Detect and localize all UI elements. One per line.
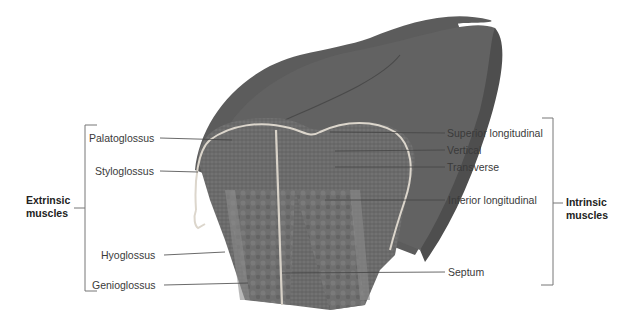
- label-genioglossus: Genioglossus: [92, 279, 156, 291]
- intrinsic-muscles-heading: Intrinsic muscles: [566, 196, 608, 222]
- label-palatoglossus: Palatoglossus: [89, 132, 154, 144]
- extrinsic-bracket: [74, 125, 97, 291]
- label-styloglossus: Styloglossus: [95, 165, 154, 177]
- tongue-muscles-diagram: Extrinsic muscles Palatoglossus Styloglo…: [0, 0, 636, 326]
- label-transverse: Transverse: [447, 161, 499, 173]
- label-superior-longitudinal: Superior longitudinal: [447, 127, 543, 139]
- extrinsic-muscles-heading: Extrinsic muscles: [26, 194, 70, 220]
- label-vertical: Vertical: [447, 144, 481, 156]
- tongue-illustration: [0, 0, 636, 326]
- label-inferior-longitudinal: Inferior longitudinal: [448, 194, 537, 206]
- label-septum: Septum: [448, 266, 484, 278]
- intrinsic-bracket: [541, 118, 563, 285]
- label-hyoglossus: Hyoglossus: [101, 249, 155, 261]
